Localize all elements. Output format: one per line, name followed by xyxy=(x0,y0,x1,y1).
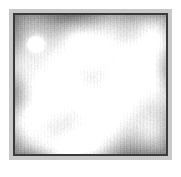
image-mount-frame xyxy=(9,9,172,160)
micrograph-scan-area xyxy=(15,15,166,154)
image-border xyxy=(13,13,168,156)
micrograph-canvas xyxy=(15,15,166,154)
figure-root xyxy=(0,0,181,177)
